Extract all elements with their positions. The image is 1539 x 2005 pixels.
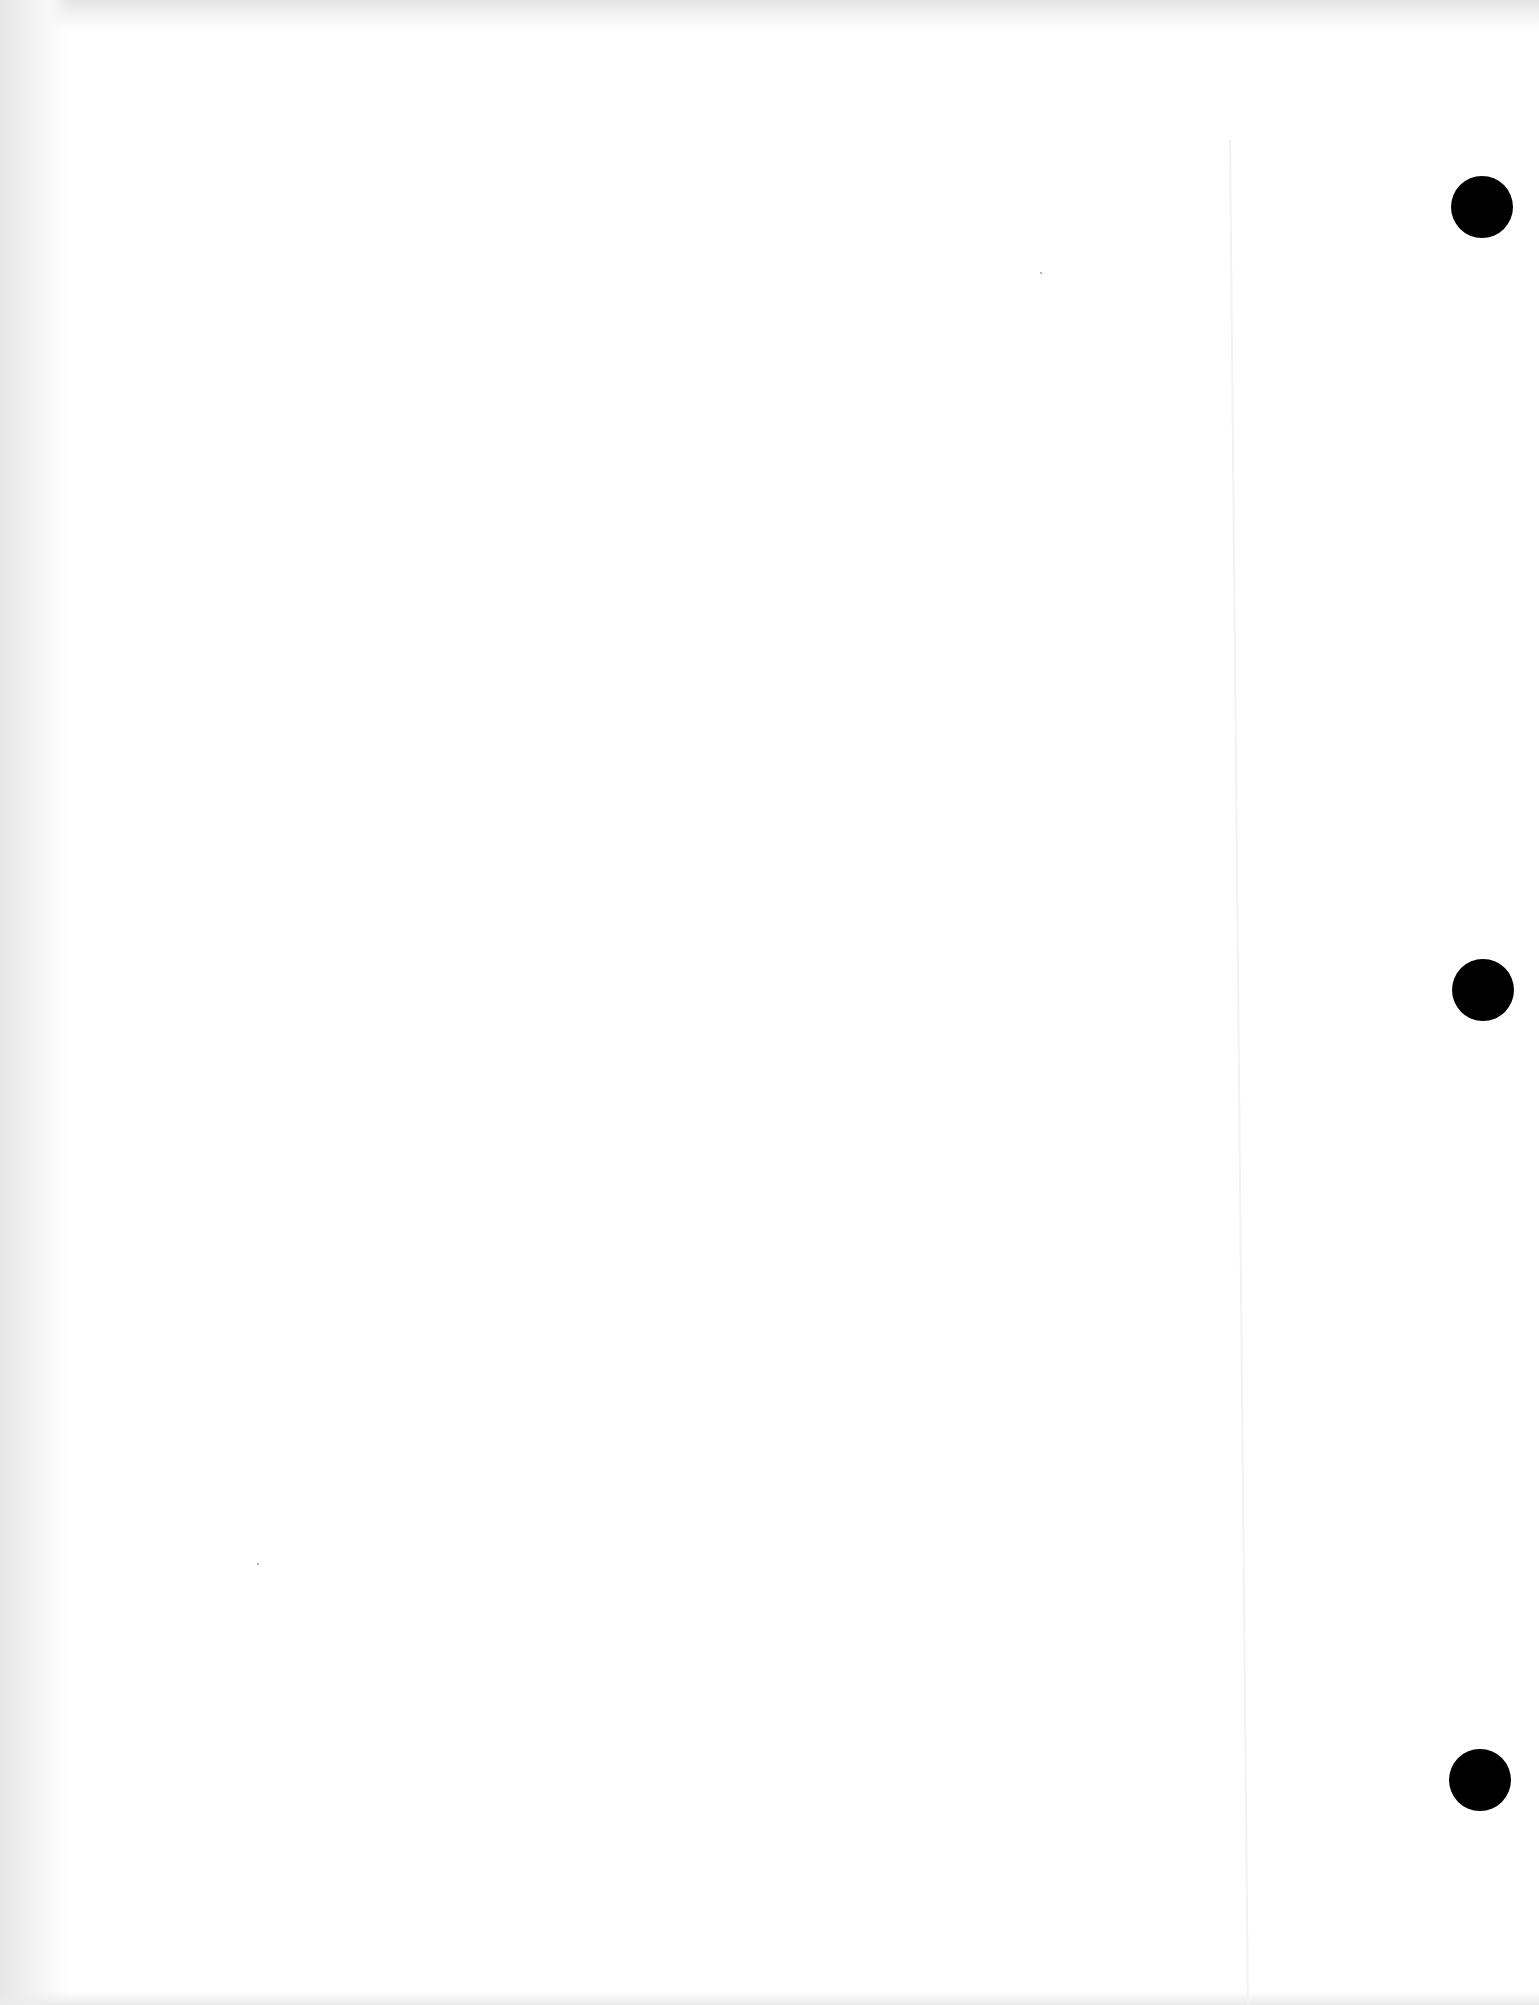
- scan-shadow-top: [0, 0, 1539, 30]
- punch-hole-middle: [1452, 959, 1514, 1021]
- scanned-page: [0, 0, 1539, 2005]
- dust-speck: [1040, 272, 1042, 274]
- dust-speck: [257, 1563, 259, 1565]
- punch-hole-top: [1451, 176, 1513, 238]
- scan-shadow-bottom: [0, 1991, 1539, 2005]
- page-crease-line: [1229, 140, 1249, 2005]
- scan-shadow-left: [0, 0, 70, 2005]
- punch-hole-bottom: [1449, 1749, 1511, 1811]
